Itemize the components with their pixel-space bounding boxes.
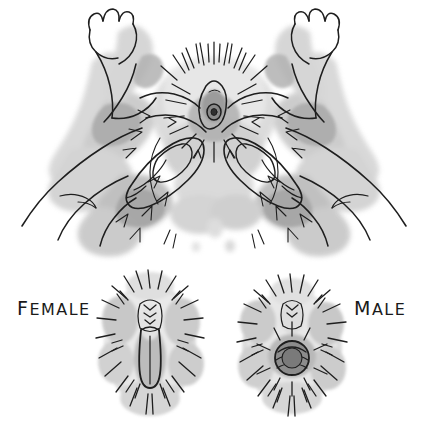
bottom-right-male-closeup — [0, 0, 428, 444]
label-male: MALE — [354, 297, 406, 319]
label-male-rest: ALE — [372, 300, 406, 319]
label-male-initial: M — [354, 297, 372, 319]
label-female-rest: EMALE — [29, 300, 90, 319]
illustration-page: FEMALE MALE — [0, 0, 428, 444]
label-female: FEMALE — [17, 297, 91, 319]
label-female-initial: F — [17, 297, 29, 319]
